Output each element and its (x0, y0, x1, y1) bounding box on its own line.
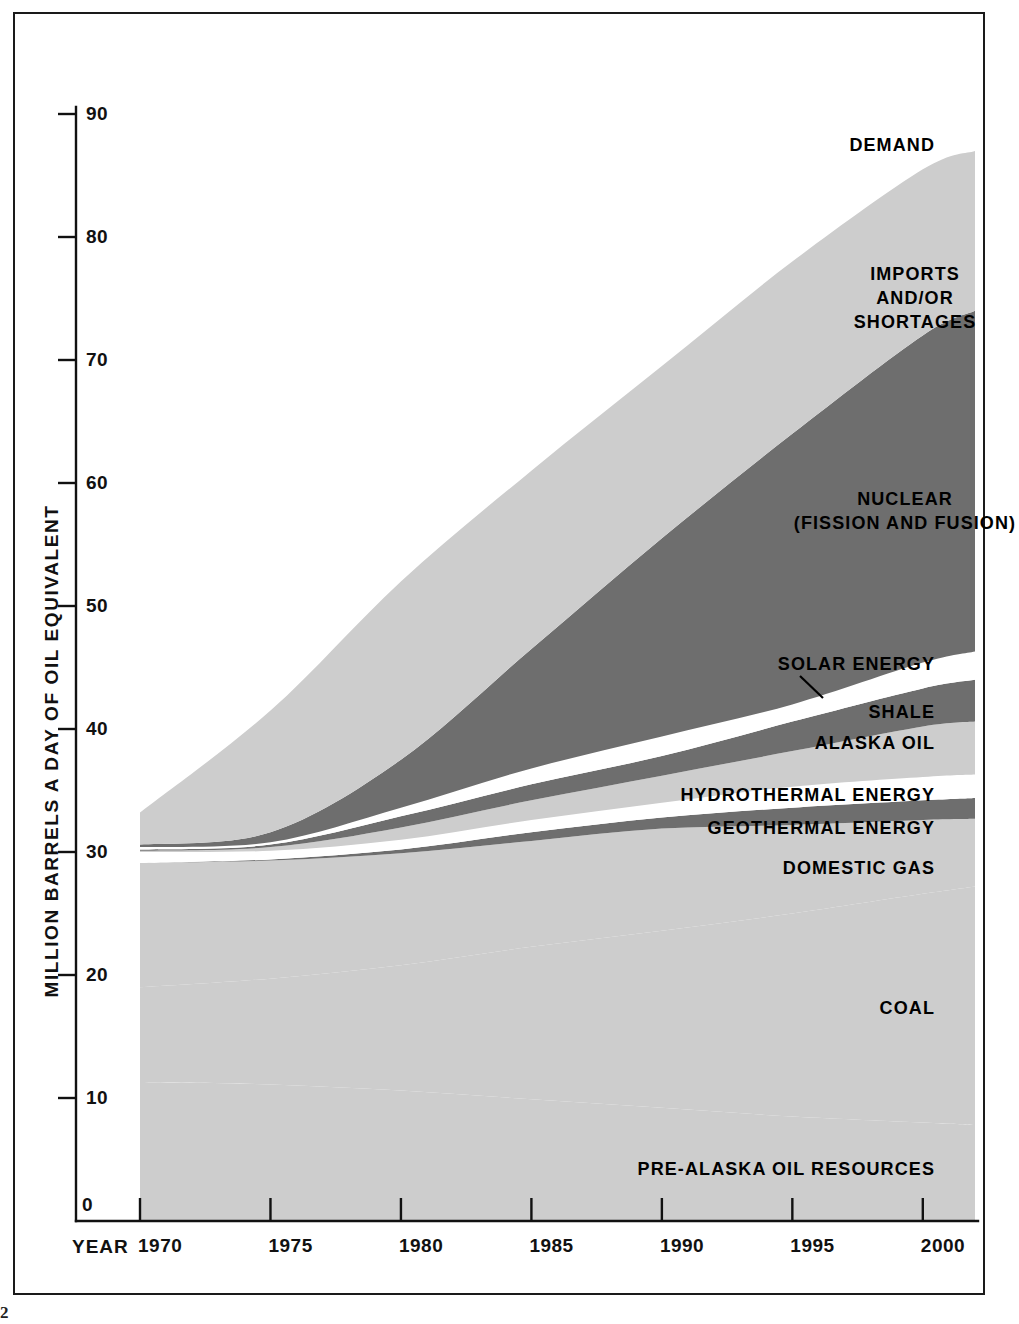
x-axis-title: YEAR (72, 1236, 129, 1258)
y-tick-label: 50 (86, 596, 130, 615)
x-tick-label: 1980 (399, 1236, 489, 1255)
y-tick-label: 80 (86, 227, 130, 246)
band-label-coal: COAL (535, 996, 935, 1020)
y-tick-label: 90 (86, 104, 130, 123)
y-tick-label: 20 (86, 965, 130, 984)
y-tick-label: 40 (86, 719, 130, 738)
y-tick-label: 60 (86, 473, 130, 492)
band-label-alaska-oil: ALASKA OIL (535, 731, 935, 755)
x-tick-label: 1995 (790, 1236, 880, 1255)
band-label-nuclear: NUCLEAR (FISSION AND FUSION) (765, 487, 1019, 535)
band-label-domestic-gas: DOMESTIC GAS (435, 856, 935, 880)
x-tick-label: 1985 (529, 1236, 619, 1255)
band-label-geothermal: GEOTHERMAL ENERGY (435, 816, 935, 840)
x-tick-label: 1990 (660, 1236, 750, 1255)
band-label-imports: IMPORTS AND/OR SHORTAGES (775, 262, 1019, 334)
band-label-shale: SHALE (535, 700, 935, 724)
page-number: 2 (0, 1303, 9, 1323)
x-tick-label: 1970 (138, 1236, 228, 1255)
band-label-solar: SOLAR ENERGY (535, 652, 935, 676)
band-label-pre-alaska: PRE-ALASKA OIL RESOURCES (435, 1157, 935, 1181)
y-tick-label: 30 (86, 842, 130, 861)
band-label-hydrothermal: HYDROTHERMAL ENERGY (435, 783, 935, 807)
x-tick-label: 1975 (268, 1236, 358, 1255)
y-axis-title: MILLION BARRELS A DAY OF OIL EQUIVALENT (41, 491, 63, 1011)
x-tick-label: 2000 (921, 1236, 1011, 1255)
band-label-demand: DEMAND (535, 133, 935, 157)
y-tick-label: 0 (82, 1195, 126, 1214)
y-tick-label: 10 (86, 1088, 130, 1107)
y-tick-label: 70 (86, 350, 130, 369)
